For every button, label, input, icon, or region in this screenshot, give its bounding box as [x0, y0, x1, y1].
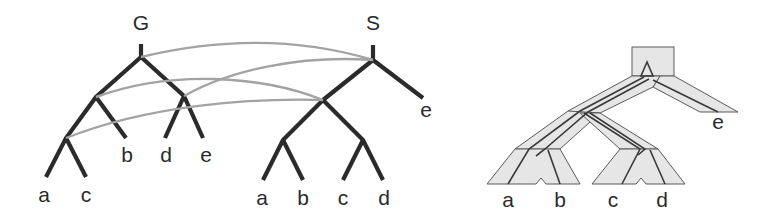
- mapping-arc-gacb-sabcd: [96, 79, 323, 100]
- species-leaf-d: d: [378, 186, 390, 209]
- tube-leaf-ab: [487, 149, 580, 184]
- embedded-leaf-d: d: [656, 188, 668, 211]
- mapping-arc-groot-sroot: [141, 43, 373, 60]
- embedded-leaf-e: e: [712, 110, 724, 133]
- species-edge-b: [283, 140, 303, 180]
- species-edge-c: [343, 140, 363, 180]
- gene-tree-label: G: [133, 11, 149, 34]
- mapping-arcs: [66, 43, 373, 138]
- embedded-tree: [487, 47, 738, 184]
- species-leaf-b: b: [297, 186, 309, 209]
- gene-leaf-b: b: [121, 143, 133, 166]
- gene-leaf-e: e: [200, 143, 212, 166]
- gene-edge-b: [96, 97, 126, 138]
- gene-leaf-a: a: [38, 183, 50, 206]
- species-leaf-e: e: [420, 98, 432, 121]
- species-edge-e: [373, 60, 423, 98]
- species-edge-abcd: [323, 60, 373, 100]
- diagram-canvas: G S a c b d e a b c d e a b c d e: [0, 0, 777, 221]
- gene-leaf-c: c: [81, 183, 92, 206]
- species-leaf-a: a: [256, 186, 268, 209]
- tube-branch-e: [653, 76, 738, 112]
- embedded-leaf-a: a: [502, 188, 514, 211]
- embedded-leaf-b: b: [554, 188, 566, 211]
- species-tree-label: S: [366, 11, 380, 34]
- species-edge-a: [263, 100, 323, 180]
- gene-edge-c: [66, 138, 86, 177]
- species-leaf-c: c: [338, 186, 349, 209]
- species-edge-d: [323, 100, 383, 180]
- species-tree-s: [263, 45, 423, 180]
- gene-leaf-d: d: [160, 143, 172, 166]
- gene-edge-d: [165, 96, 184, 138]
- embedded-leaf-c: c: [608, 188, 619, 211]
- tube-root-box: [632, 47, 674, 76]
- tube-branch-abcd: [568, 76, 660, 113]
- mapping-arc-gde-sroot: [184, 59, 373, 96]
